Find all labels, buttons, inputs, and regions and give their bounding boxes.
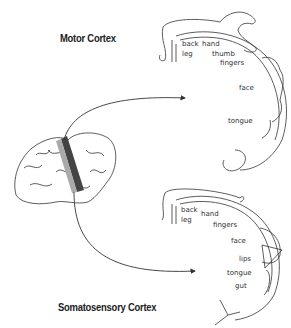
motor-cortex-title: Motor Cortex (60, 32, 116, 44)
somato-label-leg: leg (181, 216, 192, 224)
somato-label-lips: lips (239, 255, 251, 263)
motor-label-leg: leg (182, 50, 193, 58)
diagram-canvas (0, 0, 291, 328)
motor-label-fingers: fingers (220, 59, 244, 67)
sensory-homunculus (162, 189, 282, 325)
motor-label-thumb: thumb (212, 50, 235, 58)
somato-label-face: face (231, 237, 246, 245)
somato-label-hand: hand (201, 210, 219, 218)
somato-label-gut: gut (235, 282, 247, 290)
somato-label-fingers: fingers (213, 221, 237, 229)
motor-label-hand: hand (202, 40, 220, 48)
motor-label-face: face (239, 84, 254, 92)
arrow-to-sensory (74, 192, 195, 271)
motor-homunculus (159, 12, 286, 171)
motor-label-back: back (182, 40, 199, 48)
motor-label-tongue: tongue (228, 117, 253, 125)
somatosensory-cortex-title: Somatosensory Cortex (58, 301, 156, 313)
somato-label-back: back (181, 206, 198, 214)
somato-label-tongue: tongue (227, 269, 252, 277)
